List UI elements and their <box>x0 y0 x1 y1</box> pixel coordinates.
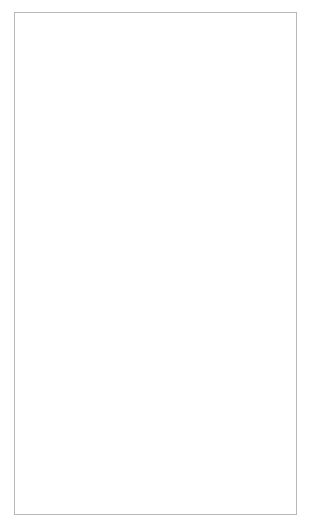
figure-frame <box>14 12 297 515</box>
chart-panel-top <box>15 13 298 263</box>
plot-area-bottom <box>15 263 298 516</box>
chart-panel-bottom <box>15 263 298 516</box>
figure-container <box>0 0 310 532</box>
plot-area-top <box>15 13 298 263</box>
